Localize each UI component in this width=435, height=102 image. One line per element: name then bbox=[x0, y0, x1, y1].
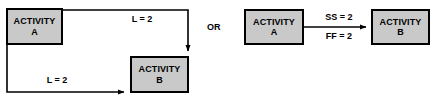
right-activity-b-label-line1: ACTIVITY bbox=[380, 17, 422, 27]
diagram-canvas: ACTIVITY A ACTIVITY B L = 2 L = 2 OR ACT… bbox=[0, 0, 435, 102]
right-activity-a-label-line2: A bbox=[271, 27, 278, 37]
right-activity-a-box[interactable]: ACTIVITY A bbox=[244, 9, 304, 45]
right-edge-label-above: SS = 2 bbox=[311, 12, 367, 22]
right-activity-b-box[interactable]: ACTIVITY B bbox=[371, 9, 430, 45]
left-edge-top-label: L = 2 bbox=[118, 14, 166, 24]
left-activity-b-label-line1: ACTIVITY bbox=[139, 64, 181, 74]
left-activity-b-label-line2: B bbox=[156, 75, 163, 85]
or-connector-label: OR bbox=[207, 22, 221, 32]
left-edge-bottom-label: L = 2 bbox=[33, 75, 81, 85]
right-edge-label-below: FF = 2 bbox=[311, 31, 367, 41]
connector-lines-layer bbox=[0, 0, 435, 102]
left-activity-b-box[interactable]: ACTIVITY B bbox=[130, 56, 189, 93]
right-activity-b-label-line2: B bbox=[397, 27, 404, 37]
left-activity-a-label-line1: ACTIVITY bbox=[14, 16, 56, 26]
right-activity-a-label-line1: ACTIVITY bbox=[253, 17, 295, 27]
left-activity-a-label-line2: A bbox=[31, 27, 38, 37]
left-activity-a-box[interactable]: ACTIVITY A bbox=[6, 8, 63, 45]
